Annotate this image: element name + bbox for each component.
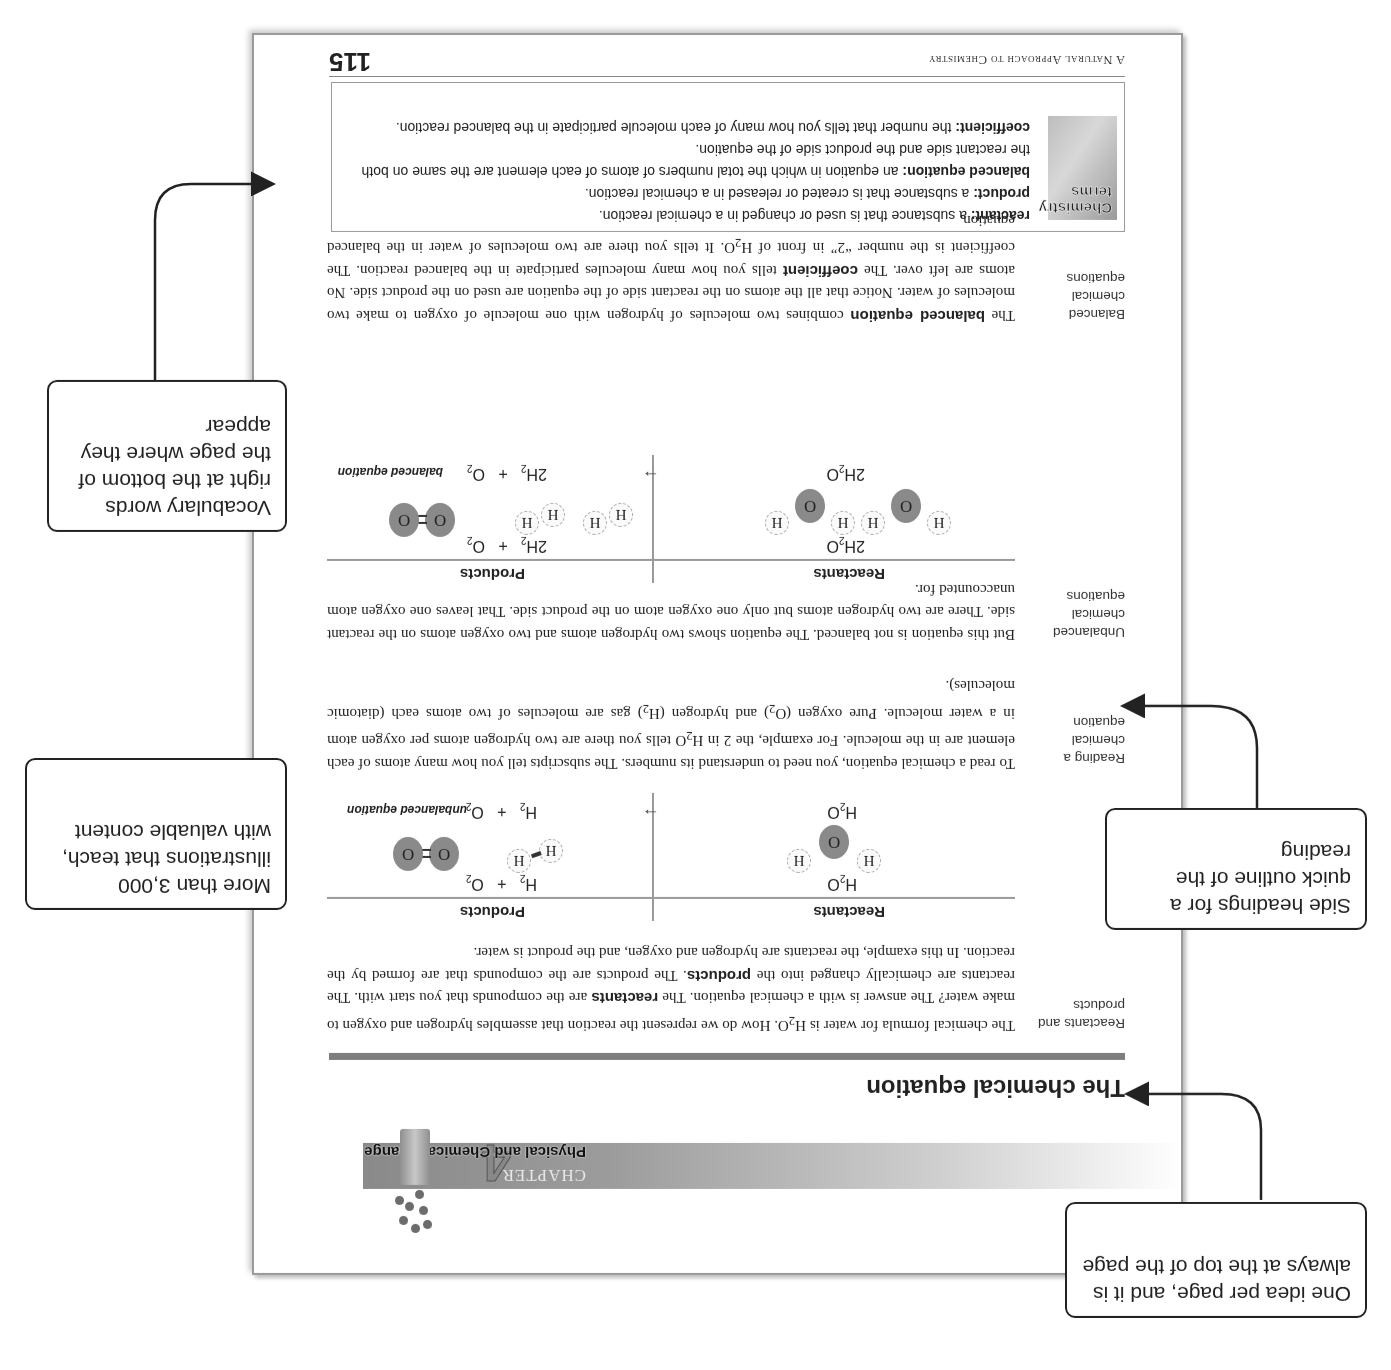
page-number: 115 (329, 46, 371, 77)
equation-label: unbalanced equation (347, 803, 467, 817)
book-title: A Natural Approach to Chemistry (929, 52, 1125, 67)
hydrogen-atom: H (765, 511, 789, 535)
products-header: Products (460, 904, 525, 921)
badge-line1: Chemistry (1039, 200, 1112, 217)
oxygen-atom: O (429, 837, 459, 871)
hydrogen-atom: H (507, 849, 531, 873)
vocab-item: product: a substance that is created or … (340, 183, 1030, 205)
reactants-header: Reactants (813, 566, 885, 583)
hydrogen-atom: H (927, 511, 951, 535)
textbook-page: 4 CHAPTER Physical and Chemical Change T… (252, 33, 1183, 1275)
side-heading-reading: Reading a chemical equation (1025, 713, 1125, 767)
reaction-arrow-icon: → (642, 466, 660, 487)
callout-side-headings: Side headings for a quick outline of the… (1105, 808, 1367, 930)
vocabulary-list: reactant: a substance that is used or ch… (340, 117, 1030, 227)
side-heading-balanced: Balanced chemical equations (1025, 269, 1125, 323)
balanced-equation-diagram: Reactants Products 2H2O 2H2 + O2 H O H H… (327, 453, 1015, 583)
equation-rhs: 2H2 + O2 (467, 463, 547, 483)
hydrogen-atom: H (831, 511, 855, 535)
title-divider (329, 1053, 1125, 1060)
hydrogen-atom: H (515, 511, 539, 535)
chapter-label: CHAPTER (502, 1165, 586, 1185)
hydrogen-atom: H (857, 849, 881, 873)
equation-lhs: H2O (827, 801, 857, 821)
hydrogen-atom: H (583, 511, 607, 535)
hydrogen-atom: H (787, 849, 811, 873)
hydrogen-atom: H (609, 503, 633, 527)
paragraph-unbalanced: But this equation is not balanced. The e… (327, 579, 1015, 647)
reactant-formula: H2O (827, 873, 857, 893)
reactants-header: Reactants (813, 904, 885, 921)
paragraph-reading: To read a chemical equation, you need to… (327, 675, 1015, 775)
oxygen-atom: O (891, 489, 921, 523)
vocabulary-box: Chemistryterms reactant: a substance tha… (331, 82, 1125, 232)
callout-vocabulary: Vocabulary words right at the bottom of … (47, 380, 287, 532)
unbalanced-equation-diagram: Reactants Products H2O H2 + O2 H O H H H… (327, 791, 1015, 921)
oxygen-atom: O (393, 837, 423, 871)
callout-illustrations: More than 3,000 illustrations that teach… (25, 758, 287, 910)
callout-one-idea: One idea per page, and it is always at t… (1065, 1202, 1367, 1318)
oxygen-atom: O (795, 489, 825, 523)
footer-rule (329, 76, 1125, 77)
badge-line2: terms (1071, 184, 1112, 201)
side-heading-reactants-products: Reactants and products (1025, 996, 1125, 1032)
paragraph-reactants-products: The chemical formula for water is H2O. H… (327, 942, 1015, 1037)
chemistry-terms-badge: Chemistryterms (1048, 116, 1117, 220)
equation-label: balanced equation (338, 465, 443, 479)
equation-rhs: H2 + O2 (466, 801, 537, 821)
product-formula: H2 + O2 (466, 873, 537, 893)
vocab-item: reactant: a substance that is used or ch… (340, 205, 1030, 227)
vocab-item: balanced equation: an equation in which … (340, 139, 1030, 183)
reaction-arrow-icon: → (642, 804, 660, 825)
oxygen-atom: O (819, 825, 849, 859)
reactant-formula: 2H2O (827, 535, 865, 555)
hydrogen-atom: H (539, 839, 563, 863)
oxygen-atom: O (425, 503, 455, 537)
rotated-canvas: 4 CHAPTER Physical and Chemical Change T… (0, 0, 1391, 1370)
page-title: The chemical equation (866, 1074, 1125, 1102)
plant-in-beaker-illustration (392, 1125, 436, 1235)
product-formula: 2H2 + O2 (467, 535, 547, 555)
hydrogen-atom: H (541, 503, 565, 527)
oxygen-atom: O (389, 503, 419, 537)
equation-lhs: 2H2O (827, 463, 865, 483)
products-header: Products (460, 566, 525, 583)
vocab-item: coefficient: the number that tells you h… (340, 117, 1030, 139)
side-heading-unbalanced: Unbalanced chemical equations (1025, 587, 1125, 641)
hydrogen-atom: H (861, 511, 885, 535)
